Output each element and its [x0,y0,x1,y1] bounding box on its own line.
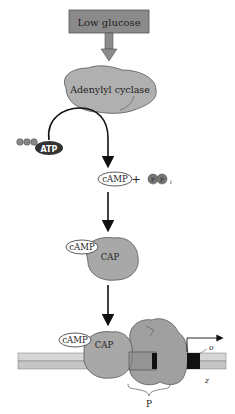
plus-sign: + [131,173,140,186]
phosphate-icon [24,139,31,146]
phosphate-icon [17,139,24,146]
svg-text:P: P [151,176,155,183]
operator-label: o [209,343,214,352]
svg-text:CAP: CAP [101,252,120,262]
transcription-start-arrow-icon [187,338,220,352]
promoter-label: P [146,399,152,409]
camp-label: cAMP [102,174,128,184]
reaction-arrow-icon [49,108,108,162]
svg-text:CAP: CAP [95,340,114,350]
svg-text:cAMP: cAMP [69,242,95,252]
adenylyl-cyclase-label: Adenylyl cyclase [69,84,150,95]
promoter-dark-box [152,353,157,369]
pyrophosphate: P P i [148,174,172,185]
svg-text:P: P [160,176,164,183]
operator-region [187,353,200,369]
atp-label: ATP [41,145,58,154]
camp-cap-pathway-diagram: Low glucose Adenylyl cyclase ATP cAMP + … [0,0,235,414]
camp-product: cAMP [98,172,132,186]
phosphate-icon [31,139,38,146]
low-glucose-label: Low glucose [77,17,140,28]
svg-text:cAMP: cAMP [62,335,88,345]
glucose-arrow-icon [101,33,117,61]
camp-cap-complex: cAMP CAP [66,238,138,281]
promoter-region [129,352,156,370]
gene-z-label: z [204,376,209,385]
atp-molecule: ATP [17,139,63,155]
svg-text:i: i [170,179,172,185]
promoter-brace [128,384,170,396]
adenylyl-cyclase-protein: Adenylyl cyclase [64,66,156,113]
low-glucose-box: Low glucose [69,10,149,33]
